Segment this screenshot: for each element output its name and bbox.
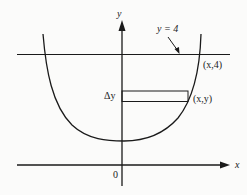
y-axis [119,20,126,186]
label-pointer-arrow [168,37,180,54]
x-axis-label: x [235,160,239,170]
point-label-x4: (x,4) [203,60,222,70]
delta-y-label: Δy [104,91,115,101]
y-axis-label: y [117,9,121,19]
diagram-canvas: y x 0 y = 4 (x,4) (x,y) Δy [0,0,247,195]
line-label: y = 4 [157,24,178,34]
x-axis [17,162,230,169]
strip-rectangle [122,91,188,102]
origin-label: 0 [113,170,118,180]
point-label-xy: (x,y) [193,94,212,104]
